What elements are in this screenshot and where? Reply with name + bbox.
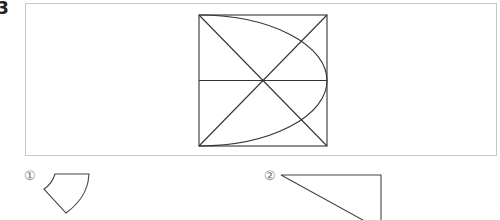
choice-2-label[interactable]: ② bbox=[264, 169, 276, 183]
choice-1-shape[interactable] bbox=[44, 174, 89, 213]
main-figure bbox=[0, 0, 500, 220]
choice-2-shape[interactable] bbox=[281, 175, 381, 220]
choice-1-label[interactable]: ① bbox=[24, 169, 36, 183]
